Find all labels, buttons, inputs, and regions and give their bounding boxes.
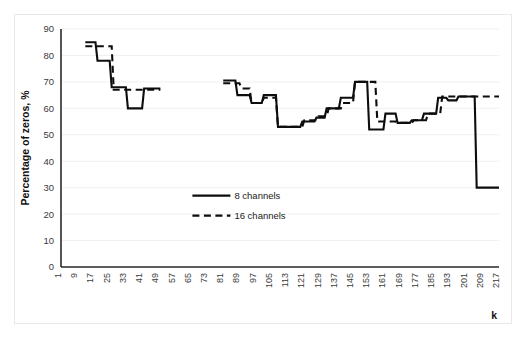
y-tick-label: 0 bbox=[49, 261, 54, 272]
x-axis-tick-labels: 1917253341495765738189971051131211291371… bbox=[53, 273, 501, 288]
series-line-1 bbox=[85, 42, 160, 108]
x-tick-label: 169 bbox=[394, 273, 404, 288]
x-tick-label: 65 bbox=[183, 273, 193, 283]
x-tick-label: 217 bbox=[491, 273, 501, 288]
y-tick-label: 50 bbox=[43, 129, 54, 140]
legend-label-2: 16 channels bbox=[234, 210, 285, 221]
gridlines-group bbox=[61, 29, 499, 267]
x-tick-label: 97 bbox=[248, 273, 258, 283]
y-tick-label: 20 bbox=[43, 209, 54, 220]
x-tick-label: 209 bbox=[475, 273, 485, 288]
x-tick-label: 185 bbox=[426, 273, 436, 288]
y-tick-label: 80 bbox=[43, 50, 54, 61]
x-tick-label: 137 bbox=[329, 273, 339, 288]
x-tick-label: 33 bbox=[118, 273, 128, 283]
x-tick-label: 105 bbox=[264, 273, 274, 288]
x-tick-label: 1 bbox=[53, 273, 63, 278]
x-tick-label: 153 bbox=[361, 273, 371, 288]
chart-legend: 8 channels16 channels bbox=[192, 190, 285, 221]
x-tick-label: 129 bbox=[313, 273, 323, 288]
x-tick-label: 121 bbox=[296, 273, 306, 288]
x-tick-label: 81 bbox=[215, 273, 225, 283]
chart-svg: 0102030405060708090 19172533414957657381… bbox=[15, 15, 511, 323]
y-tick-label: 70 bbox=[43, 76, 54, 87]
x-tick-label: 193 bbox=[442, 273, 452, 288]
x-tick-label: 177 bbox=[410, 273, 420, 288]
x-tick-label: 9 bbox=[69, 273, 79, 278]
y-axis-title: Percentage of zeros, % bbox=[19, 90, 31, 206]
plot-area: 0102030405060708090 19172533414957657381… bbox=[15, 15, 511, 323]
legend-label-1: 8 channels bbox=[234, 190, 280, 201]
x-tick-label: 161 bbox=[377, 273, 387, 288]
x-tick-label: 89 bbox=[231, 273, 241, 283]
x-axis-title: k bbox=[491, 309, 497, 321]
x-tick-label: 145 bbox=[345, 273, 355, 288]
chart-container: 0102030405060708090 19172533414957657381… bbox=[14, 14, 512, 324]
y-tick-label: 90 bbox=[43, 23, 54, 34]
y-tick-label: 10 bbox=[43, 235, 54, 246]
x-tick-label: 201 bbox=[459, 273, 469, 288]
x-tick-label: 49 bbox=[150, 273, 160, 283]
y-tick-label: 40 bbox=[43, 156, 54, 167]
series-line-1 bbox=[223, 81, 499, 188]
x-tick-label: 73 bbox=[199, 273, 209, 283]
x-tick-label: 41 bbox=[134, 273, 144, 283]
axis-lines-group bbox=[61, 29, 499, 267]
x-tick-label: 17 bbox=[85, 273, 95, 283]
x-tick-label: 25 bbox=[102, 273, 112, 283]
data-series-group bbox=[85, 42, 499, 187]
y-tick-label: 30 bbox=[43, 182, 54, 193]
x-tick-label: 57 bbox=[167, 273, 177, 283]
series-line-2 bbox=[223, 82, 499, 127]
y-axis-tick-labels: 0102030405060708090 bbox=[43, 23, 54, 272]
y-tick-label: 60 bbox=[43, 103, 54, 114]
x-tick-label: 113 bbox=[280, 273, 290, 287]
